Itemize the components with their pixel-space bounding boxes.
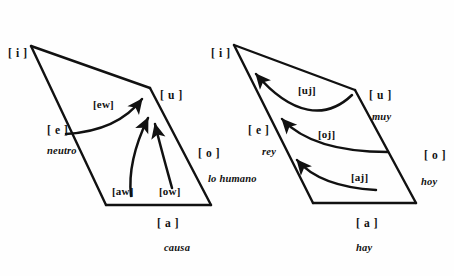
left-diphthong-ew: [ew]: [93, 99, 114, 110]
left-word-lo-humano: lo humano: [208, 174, 257, 185]
left-arrow-group: [66, 99, 172, 196]
vowel-diphthong-figure: [ i ] [ e ] [ u ] [ o ] [ a ] [ew] [aw] …: [0, 0, 454, 276]
arrow-ow: [155, 124, 172, 188]
left-vowel-u: [ u ]: [160, 90, 183, 102]
right-word-rey: rey: [262, 147, 276, 158]
left-vowel-a: [ a ]: [157, 218, 179, 230]
right-vowel-e: [ e ]: [248, 125, 270, 137]
left-diphthong-ow: [ow]: [159, 186, 181, 197]
left-vowel-i: [ i ]: [8, 48, 28, 60]
left-vowel-o: [ o ]: [198, 148, 220, 160]
right-vowel-u: [ u ]: [369, 90, 392, 102]
left-vowel-e: [ e ]: [47, 125, 69, 137]
right-vowel-a: [ a ]: [356, 218, 378, 230]
right-diphthong-uj: [uj]: [298, 85, 316, 96]
right-diphthong-aj: [aj]: [351, 172, 368, 183]
left-diphthong-aw: [aw]: [112, 186, 134, 197]
right-word-muy: muy: [372, 112, 391, 123]
left-word-neutro: neutro: [47, 146, 77, 157]
right-vowel-i: [ i ]: [211, 48, 231, 60]
left-word-causa: causa: [164, 243, 190, 254]
right-word-hoy: hoy: [421, 177, 437, 188]
right-diphthong-oj: [oj]: [318, 129, 335, 140]
right-word-hay: hay: [356, 243, 372, 254]
right-vowel-o: [ o ]: [424, 150, 446, 162]
diagram-canvas: [0, 0, 454, 276]
